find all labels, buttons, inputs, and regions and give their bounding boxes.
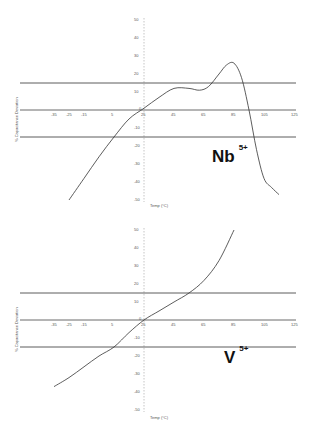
y-tick-label: -20 (134, 144, 140, 148)
x-tick-label: 5 (111, 323, 113, 327)
x-tick-label: 105 (261, 113, 268, 117)
x-tick-label: 5 (111, 113, 113, 117)
x-tick-label: -15 (81, 323, 87, 327)
y-tick-label: 50 (134, 18, 138, 22)
x-tick-label: 25 (141, 113, 145, 117)
y-tick-label: 30 (134, 54, 138, 58)
x-tick-label: 105 (261, 323, 268, 327)
y-tick-label: 50 (134, 228, 138, 232)
nb-ion-charge: 5+ (239, 143, 248, 152)
v-chart: % Capacitance Deviation Temp (°C) V5+ -3… (0, 210, 313, 434)
v-y-axis-label: % Capacitance Deviation (14, 307, 19, 352)
v-x-axis-label: Temp (°C) (150, 415, 168, 420)
x-tick-label: -15 (81, 113, 87, 117)
y-tick-label: -20 (134, 354, 140, 358)
x-tick-label: 25 (141, 323, 145, 327)
x-tick-label: 125 (291, 113, 298, 117)
x-tick-label: 85 (231, 113, 235, 117)
v-ion-label: V5+ (224, 348, 248, 368)
nb-chart: % Capacitance Deviation Temp (°C) Nb5+ -… (0, 0, 313, 212)
x-tick-label: -35 (51, 113, 57, 117)
y-tick-label: -40 (134, 180, 140, 184)
y-tick-label: -50 (134, 198, 140, 202)
y-tick-label: 20 (134, 72, 138, 76)
x-tick-label: 65 (201, 323, 205, 327)
y-tick-label: -10 (134, 126, 140, 130)
v-ion-symbol: V (224, 348, 235, 367)
y-tick-label: 0 (139, 107, 141, 111)
y-tick-label: -30 (134, 372, 140, 376)
v-ion-charge: 5+ (239, 344, 248, 353)
x-tick-label: 45 (171, 113, 175, 117)
x-tick-label: -25 (66, 113, 72, 117)
y-tick-label: 40 (134, 246, 138, 250)
y-tick-label: -40 (134, 390, 140, 394)
y-tick-label: 10 (134, 300, 138, 304)
nb-ion-label: Nb5+ (212, 147, 248, 167)
x-tick-label: 65 (201, 113, 205, 117)
y-tick-label: 20 (134, 282, 138, 286)
nb-ion-symbol: Nb (212, 147, 235, 166)
y-tick-label: -50 (134, 408, 140, 412)
x-tick-label: 45 (171, 323, 175, 327)
nb-y-axis-label: % Capacitance Deviation (14, 97, 19, 142)
nb-chart-plot (0, 0, 313, 212)
y-tick-label: 10 (134, 90, 138, 94)
y-tick-label: 30 (134, 264, 138, 268)
nb-x-axis-label: Temp (°C) (150, 203, 168, 208)
x-tick-label: -25 (66, 323, 72, 327)
y-tick-label: 0 (139, 317, 141, 321)
y-tick-label: -10 (134, 336, 140, 340)
x-tick-label: 125 (291, 323, 298, 327)
x-tick-label: 85 (231, 323, 235, 327)
x-tick-label: -35 (51, 323, 57, 327)
y-tick-label: -30 (134, 162, 140, 166)
y-tick-label: 40 (134, 36, 138, 40)
